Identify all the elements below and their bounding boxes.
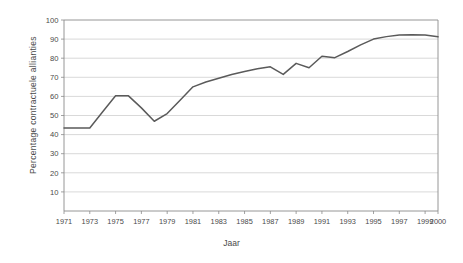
x-tick-label-1993: 1993 [339,217,355,226]
y-tick-label-10: 10 [50,188,58,197]
x-tick-label-1989: 1989 [288,217,304,226]
x-tick-label-1975: 1975 [107,217,123,226]
x-tick-label-1977: 1977 [133,217,149,226]
y-tick-label-60: 60 [50,92,58,101]
y-tick-label-100: 100 [46,16,59,25]
y-tick-label-80: 80 [50,54,58,63]
series-line-percentage-contractuele-allianties [64,35,438,128]
x-tick-label-1983: 1983 [211,217,227,226]
y-tick-label-90: 90 [50,35,58,44]
gridlines-group [64,39,438,192]
x-tick-label-1985: 1985 [236,217,252,226]
x-tick-label-1991: 1991 [314,217,330,226]
y-tick-label-40: 40 [50,130,58,139]
y-tick-label-50: 50 [50,111,58,120]
y-axis-ticks-group: 102030405060708090100 [46,16,64,197]
x-tick-label-1997: 1997 [391,217,407,226]
y-tick-label-70: 70 [50,73,58,82]
x-tick-label-1995: 1995 [365,217,381,226]
x-tick-label-1981: 1981 [185,217,201,226]
x-axis-title: Jaar [0,238,463,248]
plot-area: 102030405060708090100 197119731975197719… [0,0,463,263]
x-axis-ticks-group: 1971197319751977197919811983198519871989… [56,211,446,226]
x-tick-label-1971: 1971 [56,217,72,226]
line-chart-svg: 102030405060708090100 197119731975197719… [0,0,463,263]
y-tick-label-30: 30 [50,149,58,158]
y-tick-label-20: 20 [50,169,58,178]
x-tick-label-2000: 2000 [430,217,446,226]
x-tick-label-1973: 1973 [82,217,98,226]
x-tick-label-1979: 1979 [159,217,175,226]
chart-figure: Percentage contractuele allianties 10203… [0,0,463,263]
x-tick-label-1987: 1987 [262,217,278,226]
